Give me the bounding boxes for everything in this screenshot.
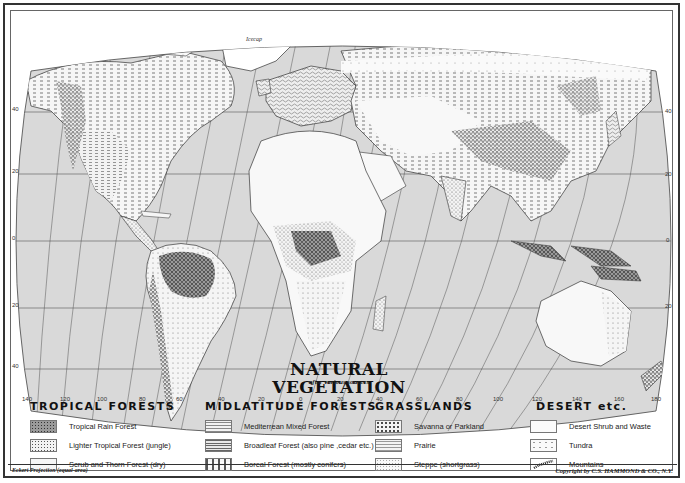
projection-note: Eckert Projection (equal-area) (12, 467, 88, 473)
legend-item: Savanna or Parkland (375, 417, 484, 435)
legend-heading: GRASSLANDS (375, 400, 484, 413)
swatch-desert-shrub (530, 420, 557, 433)
swatch-lighter-tropical-forest (30, 439, 57, 452)
swatch-prairie (375, 439, 402, 452)
lat-label: 20 (665, 171, 672, 177)
legend-label: Mediterrean Mixed Forest (244, 422, 329, 431)
lon-label: 60 (176, 396, 183, 402)
legend-item: Broadleaf Forest (also pine ,cedar etc.) (205, 436, 377, 454)
legend-item: Tundra (530, 436, 651, 454)
map-subtitle: after various sources (236, 378, 442, 386)
legend-item: Desert Shrub and Waste (530, 417, 651, 435)
legend-tropical-forests: TROPICAL FORESTS Tropical Rain Forest Li… (30, 400, 175, 474)
legend-heading: DESERT etc. (530, 400, 651, 413)
lat-label: 0 (666, 237, 669, 243)
legend-heading: TROPICAL FORESTS (30, 400, 175, 413)
lat-label: 40 (12, 363, 19, 369)
swatch-broadleaf-forest (205, 439, 232, 452)
legend-item: Mediterrean Mixed Forest (205, 417, 377, 435)
icecap-label: Icecap (245, 36, 262, 42)
legend-midlatitude-forests: MIDLATITUDE FORESTS Mediterrean Mixed Fo… (205, 400, 377, 474)
legend-label: Savanna or Parkland (414, 422, 484, 431)
copyright-note: Copyright by C.S. HAMMOND & CO., N.Y. (555, 467, 673, 474)
lat-label: 20 (665, 303, 672, 309)
swatch-savanna-parkland (375, 420, 402, 433)
legend-label: Broadleaf Forest (also pine ,cedar etc.) (244, 441, 374, 450)
lat-label: 20 (12, 168, 19, 174)
legend-item: Prairie (375, 436, 484, 454)
legend-heading: MIDLATITUDE FORESTS (205, 400, 377, 413)
legend-item: Lighter Tropical Forest (jungle) (30, 436, 175, 454)
legend-label: Desert Shrub and Waste (569, 422, 651, 431)
swatch-tropical-rain-forest (30, 420, 57, 433)
legend-label: Lighter Tropical Forest (jungle) (69, 441, 171, 450)
lon-label: 180 (651, 396, 661, 402)
legend-item: Tropical Rain Forest (30, 417, 175, 435)
lat-label: 40 (12, 106, 19, 112)
footer-divider (8, 464, 677, 465)
legend-label: Prairie (414, 441, 436, 450)
lon-label: 100 (493, 396, 503, 402)
lat-label: 40 (665, 108, 672, 114)
swatch-mediterranean-mixed-forest (205, 420, 232, 433)
legend-desert: DESERT etc. Desert Shrub and Waste Tundr… (530, 400, 651, 474)
legend-label: Tropical Rain Forest (69, 422, 136, 431)
legend-grasslands: GRASSLANDS Savanna or Parkland Prairie S… (375, 400, 484, 474)
lat-label: 20 (12, 302, 19, 308)
legend-label: Tundra (569, 441, 593, 450)
swatch-tundra (530, 439, 557, 452)
lat-label: 0 (12, 235, 15, 241)
